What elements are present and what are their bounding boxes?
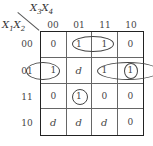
cell-00-00: 0 xyxy=(41,32,67,58)
column-header-10: 10 xyxy=(118,20,144,30)
row-header-11: 11 xyxy=(16,92,38,102)
group-loop-row01-col10 xyxy=(124,63,138,79)
cell-10-10: 0 xyxy=(118,109,144,135)
cell-10-11: d xyxy=(92,109,118,135)
group-loop-row00-cols01-11 xyxy=(72,36,114,52)
column-header-00: 00 xyxy=(40,20,66,30)
cell-10-00: d xyxy=(41,109,67,135)
cell-01-01: d xyxy=(67,58,93,84)
column-header-01: 01 xyxy=(66,20,92,30)
row-header-00: 00 xyxy=(16,39,38,49)
cell-11-11: 0 xyxy=(92,84,118,110)
cell-11-10: 0 xyxy=(118,84,144,110)
row-variables-label: X1X2 xyxy=(2,19,25,33)
column-variables-label: X3X4 xyxy=(30,2,53,16)
row-header-10: 10 xyxy=(16,118,38,128)
cell-10-01: d xyxy=(67,109,93,135)
cell-00-10: 0 xyxy=(118,32,144,58)
column-header-11: 11 xyxy=(92,20,118,30)
cell-11-00: 0 xyxy=(41,84,67,110)
group-loop-row01-col00-wrap xyxy=(26,62,60,80)
group-loop-row11-col01 xyxy=(72,89,88,105)
